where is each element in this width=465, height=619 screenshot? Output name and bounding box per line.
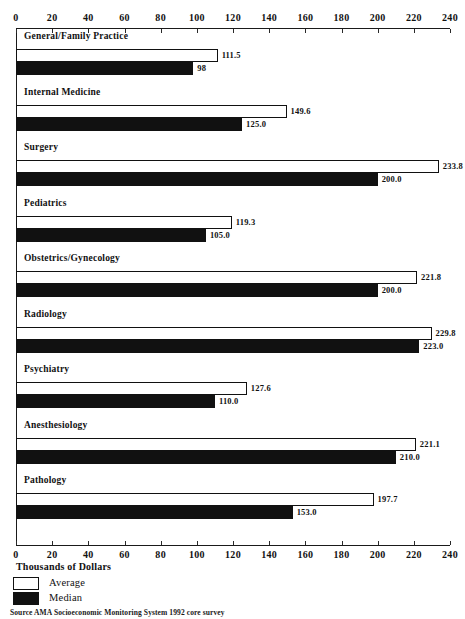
bar-group: Pathology197.7153.0	[16, 475, 450, 531]
bar-group-label: Internal Medicine	[24, 87, 101, 97]
axis-tick-label: 60	[119, 12, 130, 23]
bar-value-label: 223.0	[423, 341, 443, 351]
bar-group-label: Radiology	[24, 309, 67, 319]
axis-tick-label: 80	[155, 549, 166, 560]
bar-group: Anesthesiology221.1210.0	[16, 420, 450, 476]
bar-average	[16, 382, 247, 395]
axis-tick-label: 220	[406, 549, 422, 560]
bar-median	[16, 229, 206, 242]
bottom-axis-line	[16, 545, 450, 546]
axis-tick-label: 20	[47, 12, 58, 23]
axis-tick-label: 200	[370, 12, 386, 23]
bar-value-label: 110.0	[219, 396, 239, 406]
bar-value-label: 200.0	[382, 174, 402, 184]
bar-value-label: 221.1	[420, 439, 440, 449]
bar-value-label: 149.6	[291, 106, 311, 116]
axis-tick-label: 40	[83, 12, 94, 23]
axis-tick-label: 140	[261, 549, 277, 560]
bar-average	[16, 49, 218, 62]
bar-group: Radiology229.8223.0	[16, 309, 450, 365]
bar-value-label: 221.8	[421, 272, 441, 282]
bar-value-label: 210.0	[400, 452, 420, 462]
axis-tick-label: 0	[13, 549, 18, 560]
bar-median	[16, 173, 378, 186]
axis-tick	[450, 541, 451, 545]
bar-group-label: Obstetrics/Gynecology	[24, 253, 120, 263]
bar-group: Internal Medicine149.6125.0	[16, 87, 450, 143]
bar-value-label: 233.8	[443, 161, 463, 171]
axis-tick-label: 60	[119, 549, 130, 560]
axis-tick-label: 0	[13, 12, 18, 23]
horizontal-bar-chart: 0020204040606080801001001201201401401601…	[0, 0, 465, 619]
bar-group-label: General/Family Practice	[24, 31, 128, 41]
x-axis-caption: Thousands of Dollars	[16, 561, 111, 572]
bar-average	[16, 105, 287, 118]
legend-label-median: Median	[49, 592, 82, 603]
bar-group-label: Pathology	[24, 475, 66, 485]
legend-label-average: Average	[49, 577, 85, 588]
bar-value-label: 119.3	[236, 217, 256, 227]
black-square-icon	[13, 592, 39, 605]
bar-group-label: Pediatrics	[24, 198, 67, 208]
bar-group-label: Psychiatry	[24, 364, 69, 374]
bar-median	[16, 506, 293, 519]
bar-average	[16, 271, 417, 284]
bar-average	[16, 160, 439, 173]
bar-median	[16, 284, 378, 297]
axis-tick-label: 100	[189, 12, 205, 23]
bar-value-label: 229.8	[436, 328, 456, 338]
bar-group: Psychiatry127.6110.0	[16, 364, 450, 420]
bar-median	[16, 62, 193, 75]
bar-median	[16, 451, 396, 464]
axis-tick-label: 80	[155, 12, 166, 23]
axis-tick-label: 20	[47, 549, 58, 560]
axis-tick-label: 140	[261, 12, 277, 23]
bar-average	[16, 327, 432, 340]
axis-tick-label: 160	[297, 549, 313, 560]
source-note: Source AMA Socioeconomic Monitoring Syst…	[10, 608, 225, 617]
axis-tick-label: 220	[406, 12, 422, 23]
white-square-icon	[13, 577, 39, 590]
axis-tick-label: 120	[225, 549, 241, 560]
bar-median	[16, 118, 242, 131]
bar-group-label: Surgery	[24, 142, 58, 152]
bar-value-label: 111.5	[222, 50, 241, 60]
bar-group-label: Anesthesiology	[24, 420, 88, 430]
axis-tick-label: 240	[442, 12, 458, 23]
bar-average	[16, 493, 374, 506]
bar-value-label: 105.0	[210, 230, 230, 240]
bar-median	[16, 340, 419, 353]
axis-tick	[450, 29, 451, 33]
bar-value-label: 127.6	[251, 383, 271, 393]
axis-tick-label: 120	[225, 12, 241, 23]
axis-tick-label: 40	[83, 549, 94, 560]
axis-tick-label: 240	[442, 549, 458, 560]
bar-group: Surgery233.8200.0	[16, 142, 450, 198]
axis-tick-label: 180	[334, 12, 350, 23]
bar-average	[16, 216, 232, 229]
bar-value-label: 125.0	[246, 119, 266, 129]
bar-group: General/Family Practice111.598	[16, 31, 450, 87]
bar-value-label: 197.7	[378, 494, 398, 504]
bar-value-label: 153.0	[297, 507, 317, 517]
bar-group: Obstetrics/Gynecology221.8200.0	[16, 253, 450, 309]
axis-tick-label: 180	[334, 549, 350, 560]
bar-group: Pediatrics119.3105.0	[16, 198, 450, 254]
bar-average	[16, 438, 416, 451]
bar-value-label: 200.0	[382, 285, 402, 295]
axis-tick-label: 100	[189, 549, 205, 560]
axis-tick-label: 200	[370, 549, 386, 560]
axis-tick-label: 160	[297, 12, 313, 23]
plot-area: General/Family Practice111.598Internal M…	[16, 29, 450, 545]
bar-median	[16, 395, 215, 408]
bar-value-label: 98	[197, 63, 206, 73]
